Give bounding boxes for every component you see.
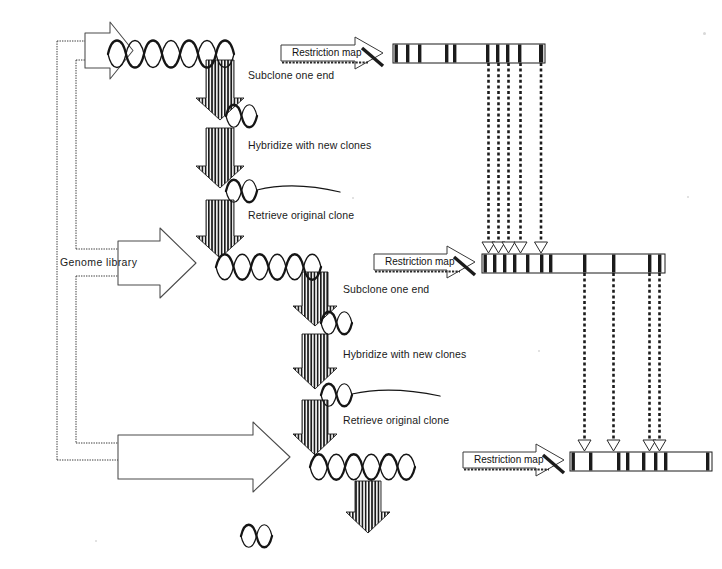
restriction-map-label-3: Restriction map xyxy=(474,454,543,465)
genome-library-arrow-bottom xyxy=(118,422,290,492)
genome-library-label: Genome library xyxy=(60,256,137,268)
genomic-clone-helix-3 xyxy=(310,454,415,480)
connector-arrowheads-1 xyxy=(482,242,548,253)
restriction-map-3 xyxy=(570,452,712,471)
connector-group-2 xyxy=(585,273,660,440)
down-arrow-7 xyxy=(346,481,390,533)
restriction-map-2 xyxy=(482,254,665,273)
scan-speckle xyxy=(703,32,706,35)
scan-speckle xyxy=(95,540,97,542)
step-label-hybridize-1: Hybridize with new clones xyxy=(248,139,371,151)
step-label-subclone-2: Subclone one end xyxy=(343,283,429,295)
scan-speckle xyxy=(687,196,689,198)
connector-group-1 xyxy=(489,63,542,242)
scan-speckle xyxy=(352,197,354,199)
step-label-retrieve-1: Retrieve original clone xyxy=(248,209,354,221)
diagram-canvas: Genome library Restriction map Restricti… xyxy=(0,0,722,569)
down-arrow-5 xyxy=(293,334,337,389)
down-arrow-1 xyxy=(196,60,244,120)
feedback-loop-outer xyxy=(57,41,118,460)
down-arrow-6 xyxy=(293,400,337,455)
restriction-map-1 xyxy=(393,44,545,63)
down-arrow-3 xyxy=(196,200,244,258)
retrieved-clone-helix-1 xyxy=(226,180,340,203)
restriction-map-label-2: Restriction map xyxy=(385,256,454,267)
retrieved-clone-helix-2 xyxy=(321,384,440,407)
step-label-hybridize-2: Hybridize with new clones xyxy=(343,348,466,360)
subclone-helix-3 xyxy=(241,525,272,548)
restriction-map-label-1: Restriction map xyxy=(292,47,361,58)
step-label-retrieve-2: Retrieve original clone xyxy=(343,414,449,426)
step-label-subclone-1: Subclone one end xyxy=(248,69,334,81)
scan-speckle xyxy=(538,350,540,352)
down-arrow-2 xyxy=(196,128,244,188)
connector-arrowheads-2 xyxy=(578,440,666,451)
